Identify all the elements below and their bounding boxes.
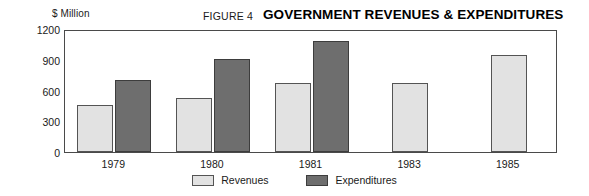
y-axis-tick: 900 [6, 55, 60, 67]
figure-title: GOVERNMENT REVENUES & EXPENDITURES [263, 7, 563, 22]
legend-swatch-icon [306, 175, 328, 186]
figure-container: $ Million FIGURE 4 GOVERNMENT REVENUES &… [0, 0, 589, 196]
legend-label: Expenditures [335, 174, 396, 186]
bar-revenues-1979 [77, 105, 113, 152]
plot-frame [64, 30, 557, 153]
y-axis-tick: 300 [6, 116, 60, 128]
legend-label: Revenues [221, 174, 268, 186]
chart-legend: RevenuesExpenditures [0, 174, 589, 186]
y-axis-tick-labels: 03006009001200 [0, 30, 60, 153]
bar-expenditures-1980 [214, 59, 250, 152]
bar-revenues-1985 [491, 55, 527, 152]
x-axis-tick-1985: 1985 [496, 158, 519, 170]
legend-item-expenditures: Expenditures [306, 174, 396, 186]
legend-item-revenues: Revenues [192, 174, 268, 186]
legend-swatch-icon [192, 175, 214, 186]
bar-revenues-1980 [176, 98, 212, 152]
y-axis-tick: 600 [6, 86, 60, 98]
x-axis-tick-1980: 1980 [200, 158, 223, 170]
bar-expenditures-1979 [115, 80, 151, 152]
plot-area [65, 31, 556, 152]
x-axis-tick-1979: 1979 [102, 158, 125, 170]
figure-number-label: FIGURE 4 [203, 10, 253, 22]
y-axis-unit-label: $ Million [52, 8, 90, 19]
y-axis-tick: 1200 [6, 24, 60, 36]
y-axis-tick: 0 [6, 147, 60, 159]
bar-revenues-1983 [392, 83, 428, 152]
x-axis-tick-1981: 1981 [299, 158, 322, 170]
bar-revenues-1981 [275, 83, 311, 152]
bar-expenditures-1981 [313, 41, 349, 152]
x-axis-tick-1983: 1983 [397, 158, 420, 170]
